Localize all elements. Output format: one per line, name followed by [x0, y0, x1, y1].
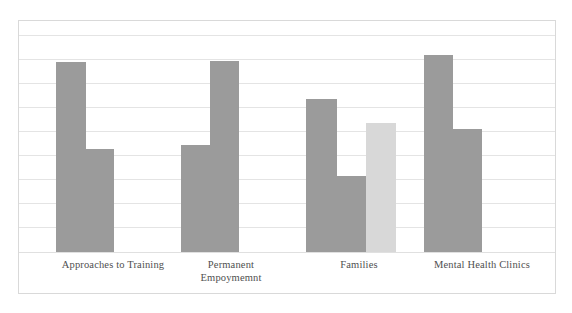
category-axis-labels: Approaches to TrainingPermanent Empoymem… [19, 252, 555, 294]
bar [210, 61, 239, 252]
bar-chart: Approaches to TrainingPermanent Empoymem… [0, 0, 572, 313]
bar [306, 99, 337, 252]
chart-frame: Approaches to TrainingPermanent Empoymem… [18, 20, 556, 294]
bar [337, 176, 366, 252]
bars-layer [19, 21, 555, 252]
bar [181, 145, 210, 252]
bar [424, 55, 453, 252]
bar [86, 149, 114, 252]
bar [453, 129, 482, 252]
bar [366, 123, 396, 252]
bar [56, 62, 86, 252]
plot-area [19, 21, 555, 252]
category-label: Mental Health Clinics [393, 258, 571, 271]
